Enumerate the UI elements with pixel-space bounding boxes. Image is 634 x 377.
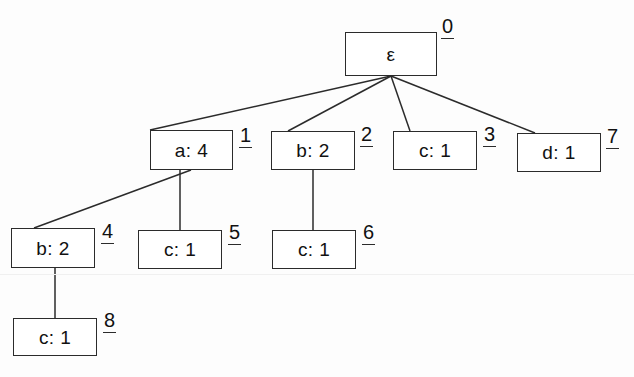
tree-node-5[interactable]: c: 1	[138, 230, 222, 269]
tree-node-label: d: 1	[542, 143, 575, 162]
tree-node-7[interactable]: d: 1	[517, 133, 601, 172]
tree-node-label: c: 1	[164, 240, 196, 259]
tree-node-label: a: 4	[175, 141, 208, 160]
tree-node-2[interactable]: b: 2	[271, 131, 355, 170]
tree-node-index-4: 4	[101, 221, 114, 244]
tree-node-1[interactable]: a: 4	[150, 130, 233, 170]
tree-node-index-8: 8	[103, 310, 116, 333]
tree-node-index-2: 2	[360, 124, 373, 147]
tree-node-8[interactable]: c: 1	[13, 318, 97, 356]
tree-node-index-0: 0	[441, 16, 454, 39]
tree-node-label: b: 2	[36, 239, 69, 258]
tree-diagram-canvas: ε0a: 41b: 22c: 13d: 17b: 24c: 15c: 16c: …	[0, 0, 634, 377]
tree-edge	[391, 76, 410, 131]
tree-node-index-7: 7	[606, 126, 619, 149]
tree-node-label: c: 1	[298, 240, 330, 259]
tree-node-0[interactable]: ε	[345, 32, 437, 76]
tree-node-4[interactable]: b: 2	[11, 228, 95, 268]
tree-node-label: c: 1	[39, 328, 71, 347]
tree-edge	[288, 76, 391, 131]
tree-node-3[interactable]: c: 1	[393, 131, 477, 170]
tree-node-label: b: 2	[296, 141, 329, 160]
scan-artifact	[0, 274, 634, 275]
tree-node-index-3: 3	[483, 124, 496, 147]
tree-edge	[150, 76, 391, 130]
tree-node-index-6: 6	[362, 222, 375, 245]
tree-node-label: c: 1	[419, 141, 451, 160]
tree-edge	[391, 76, 535, 133]
tree-node-label: ε	[387, 45, 396, 64]
tree-node-index-1: 1	[239, 125, 252, 148]
tree-node-6[interactable]: c: 1	[272, 230, 356, 269]
tree-node-index-5: 5	[228, 222, 241, 245]
